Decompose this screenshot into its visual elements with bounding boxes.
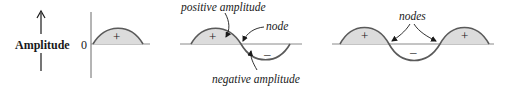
left-node-pointer-icon bbox=[392, 24, 410, 41]
amplitude-axis-label: Amplitude bbox=[15, 38, 70, 52]
nodes-label: nodes bbox=[399, 10, 426, 22]
plus-sign: + bbox=[113, 29, 120, 44]
plus-sign-left: + bbox=[361, 28, 368, 43]
panel-full-wave: positive amplitude node negative amplitu… bbox=[180, 1, 302, 86]
plus-sign-right: + bbox=[461, 28, 468, 43]
plus-sign: + bbox=[209, 29, 216, 44]
zero-label: 0 bbox=[81, 38, 87, 52]
panel-half-wave: Amplitude 0 + bbox=[15, 11, 150, 78]
panel-three-lobe-wave: nodes + – + bbox=[332, 10, 494, 61]
right-node-pointer-icon bbox=[414, 24, 436, 41]
standing-wave-diagram: Amplitude 0 + positive amplitude node ne… bbox=[0, 0, 513, 93]
minus-sign: – bbox=[263, 46, 271, 61]
node-label: node bbox=[266, 20, 288, 32]
negative-amplitude-pointer-icon bbox=[251, 51, 257, 70]
minus-sign: – bbox=[409, 44, 417, 59]
negative-amplitude-label: negative amplitude bbox=[212, 73, 300, 86]
positive-amplitude-label: positive amplitude bbox=[180, 1, 266, 14]
node-pointer-icon bbox=[243, 27, 264, 41]
